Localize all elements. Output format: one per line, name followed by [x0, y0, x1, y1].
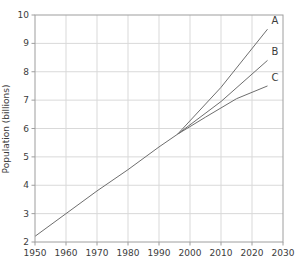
series-C-label: C: [272, 72, 279, 83]
x-tick-label: 2030: [272, 248, 295, 258]
y-tick-label: 2: [23, 237, 29, 247]
y-tick-label: 3: [23, 209, 29, 219]
series-A-line: [178, 29, 268, 134]
y-tick-label: 6: [23, 124, 29, 134]
y-tick-label: 10: [18, 10, 30, 20]
population-projections-figure: ABC 195019601970198019902000201020202030…: [0, 0, 307, 266]
y-tick-label: 4: [23, 180, 29, 190]
x-tick-label: 1980: [117, 248, 140, 258]
series-A-label: A: [272, 15, 279, 26]
series-B-label: B: [272, 46, 279, 57]
y-tick-label: 7: [23, 95, 29, 105]
y-tick-label: 5: [23, 152, 29, 162]
series-C-line: [178, 86, 268, 134]
y-tick-label: 9: [23, 38, 29, 48]
y-axis-label: Population (billions): [1, 85, 11, 174]
x-tick-label: 1950: [24, 248, 47, 258]
x-tick-label: 1970: [86, 248, 109, 258]
population-chart: ABC 195019601970198019902000201020202030…: [0, 0, 307, 266]
series-layer: ABC: [35, 15, 279, 236]
x-tick-label: 1990: [148, 248, 171, 258]
x-tick-label: 2010: [210, 248, 233, 258]
x-tick-label: 1960: [55, 248, 78, 258]
grid-layer: [35, 15, 283, 242]
x-tick-label: 2020: [241, 248, 264, 258]
x-tick-label: 2000: [179, 248, 202, 258]
y-tick-label: 8: [23, 67, 29, 77]
